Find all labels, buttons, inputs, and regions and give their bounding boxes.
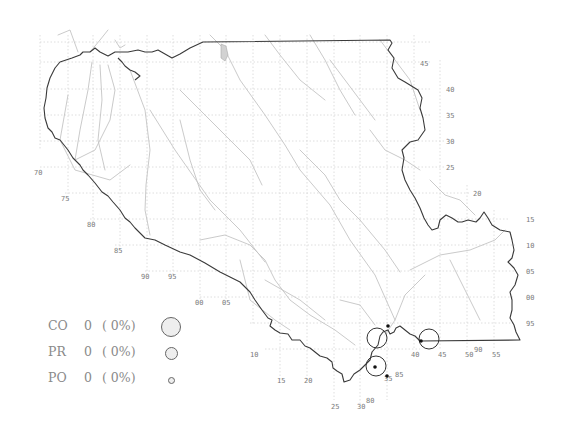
legend-count: 0 <box>84 318 92 333</box>
svg-text:45: 45 <box>438 351 446 359</box>
svg-text:15: 15 <box>526 216 534 224</box>
legend-code: PO <box>48 370 67 385</box>
legend-count: 0 <box>84 344 92 359</box>
svg-text:20: 20 <box>304 377 312 385</box>
large-circle-icon <box>161 317 181 337</box>
sites <box>366 324 439 378</box>
svg-text:05: 05 <box>526 268 534 276</box>
legend-percent: ( 0%) <box>102 344 136 359</box>
grid-labels-bottom: 00 05 10 15 20 25 30 35 40 45 50 55 <box>195 299 500 411</box>
site-circle-2[interactable] <box>419 329 439 349</box>
svg-text:50: 50 <box>465 351 473 359</box>
svg-text:30: 30 <box>357 403 365 411</box>
svg-text:80: 80 <box>87 221 95 229</box>
svg-text:70: 70 <box>34 169 42 177</box>
svg-text:95: 95 <box>168 273 176 281</box>
legend-percent: ( 0%) <box>102 370 136 385</box>
legend-count: 0 <box>84 370 92 385</box>
svg-text:40: 40 <box>446 86 454 94</box>
svg-text:15: 15 <box>277 377 285 385</box>
svg-text:25: 25 <box>331 403 339 411</box>
medium-circle-icon <box>165 347 178 360</box>
svg-text:00: 00 <box>195 299 203 307</box>
svg-text:95: 95 <box>526 320 534 328</box>
site-dot-3[interactable] <box>373 365 377 369</box>
site-dot-1[interactable] <box>386 324 390 328</box>
site-dot-4[interactable] <box>385 374 389 378</box>
svg-text:55: 55 <box>492 351 500 359</box>
legend-item-co: CO 0 ( 0%) <box>48 318 198 338</box>
svg-text:90: 90 <box>141 273 149 281</box>
legend-code: PR <box>48 344 66 359</box>
grid-labels-right: 45 40 35 30 25 20 15 10 05 00 95 <box>420 60 534 328</box>
svg-text:85: 85 <box>114 247 122 255</box>
grid-labels-left: 70 75 80 85 90 95 <box>34 169 176 281</box>
legend-item-po: PO 0 ( 0%) <box>48 370 198 390</box>
legend-code: CO <box>48 318 68 333</box>
svg-text:10: 10 <box>250 351 258 359</box>
site-circle-1[interactable] <box>367 328 387 348</box>
svg-text:00: 00 <box>526 294 534 302</box>
svg-text:80: 80 <box>366 397 374 405</box>
map-canvas: 45 40 35 30 25 20 15 10 05 00 95 70 75 8… <box>0 0 564 430</box>
rivers <box>58 30 505 345</box>
svg-text:85: 85 <box>395 371 403 379</box>
legend-item-pr: PR 0 ( 0%) <box>48 344 198 364</box>
svg-text:10: 10 <box>526 242 534 250</box>
small-circle-icon <box>168 377 175 384</box>
svg-text:30: 30 <box>446 138 454 146</box>
site-dot-2[interactable] <box>419 339 423 343</box>
svg-text:05: 05 <box>222 299 230 307</box>
svg-text:45: 45 <box>420 60 428 68</box>
svg-text:75: 75 <box>61 195 69 203</box>
svg-text:25: 25 <box>446 164 454 172</box>
svg-text:35: 35 <box>446 112 454 120</box>
svg-text:90: 90 <box>474 346 482 354</box>
legend-percent: ( 0%) <box>102 318 136 333</box>
inner-coast <box>118 58 140 80</box>
svg-text:40: 40 <box>411 351 419 359</box>
svg-text:20: 20 <box>473 190 481 198</box>
lake <box>221 44 228 61</box>
